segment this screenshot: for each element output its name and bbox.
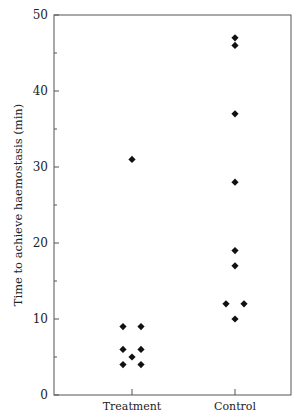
y-axis-title: Time to achieve haemostasis (min) xyxy=(11,104,25,306)
data-points xyxy=(119,34,247,368)
data-point-control xyxy=(240,300,247,307)
data-point-control xyxy=(231,262,238,269)
data-point-treatment xyxy=(128,353,135,360)
data-point-treatment xyxy=(137,346,144,353)
data-point-control xyxy=(231,110,238,117)
data-point-control xyxy=(231,179,238,186)
x-category-label-treatment: Treatment xyxy=(103,400,162,413)
x-axis: TreatmentControl xyxy=(103,389,257,413)
y-tick-label: 0 xyxy=(40,388,48,402)
data-point-control xyxy=(231,247,238,254)
y-tick-label: 50 xyxy=(33,8,48,22)
data-point-treatment xyxy=(119,346,126,353)
x-category-label-control: Control xyxy=(214,400,256,413)
data-point-control xyxy=(231,42,238,49)
data-point-treatment xyxy=(119,361,126,368)
data-point-treatment xyxy=(137,323,144,330)
data-point-control xyxy=(222,300,229,307)
y-tick-label: 30 xyxy=(33,160,48,174)
plot-frame xyxy=(54,15,291,395)
data-point-treatment xyxy=(137,361,144,368)
data-point-control xyxy=(231,34,238,41)
haemostasis-dot-plot: 01020304050 TreatmentControl Time to ach… xyxy=(0,0,300,416)
data-point-control xyxy=(231,315,238,322)
y-tick-label: 10 xyxy=(33,312,48,326)
data-point-treatment xyxy=(128,156,135,163)
y-tick-label: 40 xyxy=(33,84,48,98)
y-tick-label: 20 xyxy=(33,236,48,250)
data-point-treatment xyxy=(119,323,126,330)
y-axis: 01020304050 xyxy=(33,8,59,402)
